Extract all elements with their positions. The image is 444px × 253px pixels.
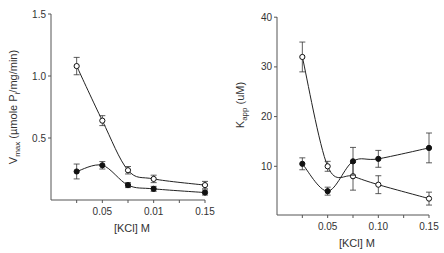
y-tick-label: 10 (261, 161, 273, 172)
filled-circle-marker (74, 169, 79, 174)
open-circle-marker (74, 63, 79, 68)
open-circle-marker (125, 168, 130, 173)
filled-circle-marker (100, 163, 105, 168)
vmax-chart: 0.51.01.50.050.010.15[KCl] MVmax (µmole … (7, 9, 215, 235)
open-circle-marker (426, 196, 431, 201)
x-tick-label: 0.15 (195, 206, 215, 217)
x-tick-label: 0.05 (93, 206, 113, 217)
figure: 0.51.01.50.050.010.15[KCl] MVmax (µmole … (0, 0, 444, 253)
filled-circle-marker (426, 145, 431, 150)
y-tick-label: 30 (261, 61, 273, 72)
series-line (302, 57, 429, 199)
x-tick-label: 0.15 (419, 221, 439, 232)
filled-circle-marker (300, 161, 305, 166)
filled-circle-marker (151, 186, 156, 191)
open-circle-marker (300, 54, 305, 59)
filled-circle-marker (125, 183, 130, 188)
y-axis-label: Vmax (µmole Pi/mg/min) (7, 50, 22, 164)
filled-circle-marker (202, 190, 207, 195)
y-tick-label: 1.0 (32, 71, 46, 82)
open-circle-marker (151, 176, 156, 181)
open-circle-marker (376, 182, 381, 187)
y-tick-label: 1.5 (32, 9, 46, 20)
y-tick-label: 40 (261, 12, 273, 23)
open-circle-marker (325, 164, 330, 169)
filled-circle-marker (350, 159, 355, 164)
series-line (302, 148, 429, 191)
x-axis-label: [KCl] M (114, 222, 150, 234)
x-tick-label: 0.10 (369, 221, 389, 232)
kapp-chart: 102030400.050.100.15[KCl] MKapp (uM) (234, 12, 439, 249)
x-tick-label: 0.05 (318, 221, 338, 232)
open-circle-marker (100, 118, 105, 123)
x-axis-label: [KCl] M (339, 237, 375, 249)
y-tick-label: 0.5 (32, 133, 46, 144)
series-line (77, 66, 205, 185)
x-tick-label: 0.01 (144, 206, 164, 217)
filled-circle-marker (325, 189, 330, 194)
y-axis-label: Kapp (uM) (234, 82, 249, 128)
y-tick-label: 20 (261, 111, 273, 122)
open-circle-marker (202, 183, 207, 188)
filled-circle-marker (376, 156, 381, 161)
series-line (77, 165, 205, 193)
